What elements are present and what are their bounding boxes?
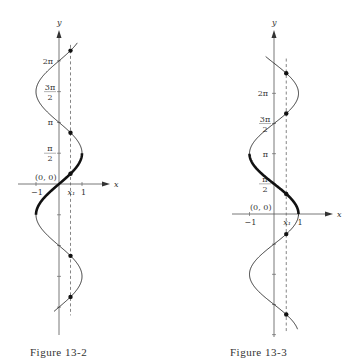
y-tick-label-denominator: 2	[262, 185, 267, 194]
y-axis-label: y	[56, 18, 62, 27]
y-tick-label-numerator: 3π	[45, 83, 55, 92]
y-axis-label: y	[271, 18, 277, 27]
intersection-dot	[68, 172, 72, 176]
x-axis-arrow-icon	[325, 212, 333, 217]
y-tick-label-denominator: 2	[47, 154, 52, 163]
y-tick-label: 2π	[43, 57, 53, 66]
figure-caption: Figure 13-3	[230, 346, 287, 358]
y-tick-label: 2π	[258, 89, 268, 98]
x1-label: x₁	[283, 218, 291, 227]
origin-label: (0, 0)	[35, 173, 57, 182]
y-tick-label-denominator: 2	[47, 93, 52, 102]
figure-caption: Figure 13-2	[30, 346, 87, 358]
y-axis-arrow-icon	[57, 30, 62, 38]
x-tick-label: −1	[245, 218, 257, 227]
intersection-dot	[68, 130, 72, 134]
y-tick-label-numerator: π	[47, 144, 52, 153]
x-axis-label: x	[114, 180, 119, 189]
x-axis-label: x	[337, 210, 342, 219]
intersection-dot	[284, 192, 288, 196]
x1-label: x₁	[68, 188, 76, 197]
intersection-dot	[68, 254, 72, 258]
y-axis-arrow-icon	[272, 30, 277, 38]
intersection-dot	[284, 312, 288, 316]
y-tick-label: π	[48, 118, 53, 127]
x-tick-label: 1	[81, 188, 86, 197]
intersection-dot	[284, 111, 288, 115]
figure-canvas: yx−11x₁π2π3π22π(0, 0)Figure 13-2yx−11x₁π…	[0, 0, 349, 363]
origin-label: (0, 0)	[250, 203, 272, 212]
intersection-dot	[284, 232, 288, 236]
x-axis-arrow-icon	[102, 182, 110, 187]
intersection-dot	[68, 295, 72, 299]
y-tick-label: π	[263, 150, 268, 159]
y-tick-label-numerator: 3π	[260, 115, 270, 124]
intersection-dot	[68, 48, 72, 52]
x-tick-label: −1	[31, 188, 43, 197]
x-tick-label: 1	[298, 218, 303, 227]
intersection-dot	[284, 71, 288, 75]
